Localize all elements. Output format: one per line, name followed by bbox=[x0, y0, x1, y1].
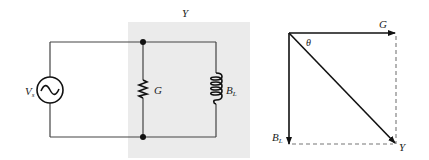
admittance-label: Y bbox=[182, 7, 190, 19]
conductance-label: G bbox=[154, 84, 162, 96]
phasor-g-label: G bbox=[379, 18, 387, 30]
ac-voltage-source-icon bbox=[37, 77, 63, 103]
phasor-y-label: Y bbox=[399, 141, 407, 153]
parallel-rl-admittance-figure: Y Vs G BL bbox=[0, 0, 429, 160]
admittance-phasor-arrow bbox=[289, 33, 395, 143]
source-label: Vs bbox=[25, 85, 35, 99]
junction-dot-top bbox=[140, 39, 146, 45]
phasor-bl-label: BL bbox=[272, 131, 283, 145]
phase-angle-label: θ bbox=[306, 37, 311, 48]
admittance-phasor-diagram: G BL Y θ bbox=[272, 18, 407, 153]
circuit-diagram: Y Vs G BL bbox=[25, 7, 250, 158]
junction-dot-bottom bbox=[140, 134, 146, 140]
